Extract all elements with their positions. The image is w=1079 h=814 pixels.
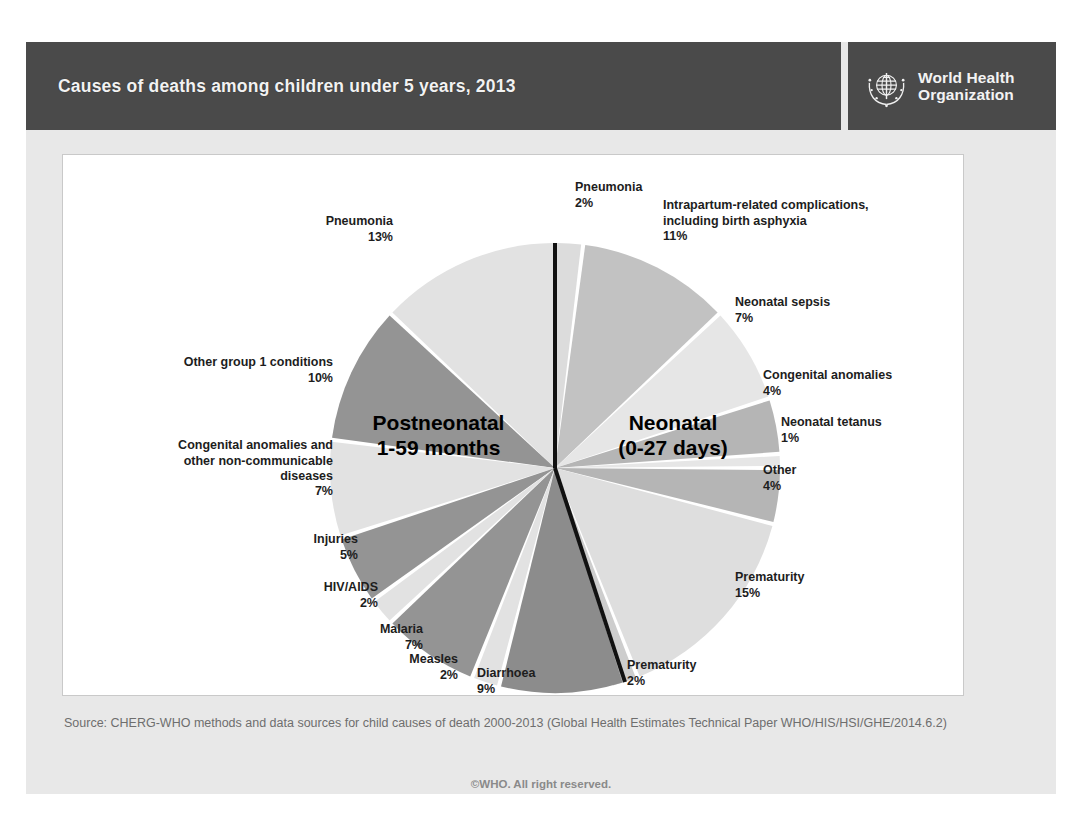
callout-intrapartum: Intrapartum-related complications, inclu…: [663, 183, 869, 259]
callout-neonatal-sepsis: Neonatal sepsis 7%: [735, 280, 830, 341]
copyright-note: ©WHO. All right reserved.: [26, 778, 1056, 790]
callout-postneonatal-pneumonia: Pneumonia 13%: [243, 199, 393, 260]
callout-prematurity-2: Prematurity 2%: [627, 643, 696, 704]
callout-prematurity-15: Prematurity 15%: [735, 555, 804, 616]
logo-line-1: World Health: [918, 69, 1015, 86]
callout-congenital-ncd: Congenital anomalies and other non-commu…: [93, 423, 333, 515]
callout-neonatal-other: Other 4%: [763, 448, 796, 509]
callout-diarrhoea: Diarrhoea 9%: [477, 651, 535, 712]
center-label-postneonatal: Postneonatal 1-59 months: [331, 410, 546, 460]
chart-panel: Neonatal (0-27 days) Postneonatal 1-59 m…: [62, 154, 964, 696]
who-emblem-icon: [864, 64, 909, 109]
slide-canvas: Causes of deaths among children under 5 …: [26, 42, 1056, 794]
logo-line-2: Organization: [918, 86, 1015, 103]
callout-other-group1: Other group 1 conditions 10%: [85, 340, 333, 401]
header-bar: Causes of deaths among children under 5 …: [26, 42, 841, 130]
pie-chart: Neonatal (0-27 days) Postneonatal 1-59 m…: [63, 155, 963, 695]
center-label-neonatal: Neonatal (0-27 days): [583, 410, 763, 460]
page-title: Causes of deaths among children under 5 …: [26, 76, 516, 97]
callout-injuries: Injuries 5%: [208, 517, 358, 578]
source-note: Source: CHERG-WHO methods and data sourc…: [64, 714, 954, 732]
who-logo-panel: World Health Organization: [848, 42, 1056, 130]
callout-neonatal-pneumonia: Pneumonia 2%: [575, 165, 642, 226]
who-logo-text: World Health Organization: [918, 69, 1015, 104]
